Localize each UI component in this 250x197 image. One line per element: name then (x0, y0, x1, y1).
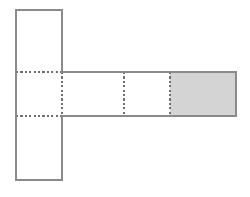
cell-top (16, 10, 62, 72)
cell-center-mid (62, 72, 124, 116)
cell-center-left (16, 72, 62, 116)
net-svg-canvas (0, 0, 250, 197)
cell-bottom (16, 116, 62, 180)
net-diagram (0, 0, 250, 197)
cell-center-right (124, 72, 170, 116)
cell-shaded-end (170, 72, 236, 116)
